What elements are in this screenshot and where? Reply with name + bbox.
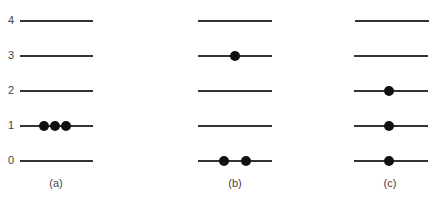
level-line-4 xyxy=(355,20,429,22)
particle-dot xyxy=(384,86,394,96)
level-label-0: 0 xyxy=(4,154,14,166)
particle-dot xyxy=(241,156,251,166)
level-line-2 xyxy=(198,90,272,92)
level-line-0 xyxy=(198,160,272,162)
level-label-3: 3 xyxy=(4,49,14,61)
panel-caption: (b) xyxy=(220,177,250,189)
level-line-4 xyxy=(20,20,93,22)
panel-caption: (a) xyxy=(41,177,71,189)
level-line-2 xyxy=(20,90,93,92)
level-label-4: 4 xyxy=(4,14,14,26)
level-line-3 xyxy=(354,55,428,57)
particle-dot xyxy=(61,121,71,131)
particle-dot xyxy=(384,121,394,131)
particle-dot xyxy=(50,121,60,131)
particle-dot xyxy=(39,121,49,131)
particle-dot xyxy=(219,156,229,166)
level-line-4 xyxy=(198,20,272,22)
level-line-1 xyxy=(198,125,272,127)
panel-caption: (c) xyxy=(375,177,405,189)
particle-dot xyxy=(384,156,394,166)
level-label-2: 2 xyxy=(4,84,14,96)
level-label-1: 1 xyxy=(4,119,14,131)
level-line-3 xyxy=(20,55,93,57)
particle-dot xyxy=(230,51,240,61)
level-line-0 xyxy=(20,160,93,162)
